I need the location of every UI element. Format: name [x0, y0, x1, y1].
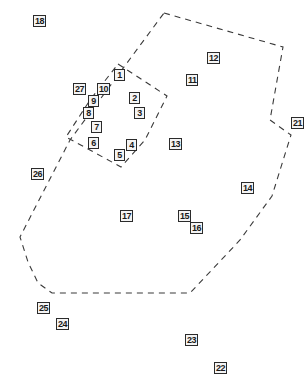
region-outlines — [0, 0, 308, 374]
label-25: 25 — [37, 302, 50, 314]
label-13: 13 — [169, 138, 182, 150]
label-15: 15 — [178, 210, 191, 222]
label-5: 5 — [114, 149, 125, 161]
outer-region-outline — [20, 13, 291, 293]
label-16: 16 — [190, 222, 203, 234]
label-18: 18 — [33, 15, 46, 27]
label-17: 17 — [120, 210, 133, 222]
diagram-canvas: 1 2 3 4 5 6 7 8 9 10 11 12 13 14 15 16 1… — [0, 0, 308, 374]
label-12: 12 — [207, 52, 220, 64]
label-21: 21 — [291, 117, 304, 129]
label-2: 2 — [129, 92, 140, 104]
label-8: 8 — [83, 107, 94, 119]
label-4: 4 — [126, 139, 137, 151]
label-7: 7 — [91, 121, 102, 133]
label-10: 10 — [97, 83, 110, 95]
label-11: 11 — [186, 74, 198, 86]
label-24: 24 — [56, 318, 69, 330]
label-3: 3 — [134, 107, 145, 119]
label-27: 27 — [73, 83, 86, 95]
label-26: 26 — [31, 168, 44, 180]
label-14: 14 — [241, 182, 254, 194]
label-23: 23 — [185, 334, 198, 346]
label-1: 1 — [114, 69, 125, 81]
label-6: 6 — [88, 137, 99, 149]
label-22: 22 — [214, 362, 227, 374]
label-9: 9 — [88, 95, 99, 107]
